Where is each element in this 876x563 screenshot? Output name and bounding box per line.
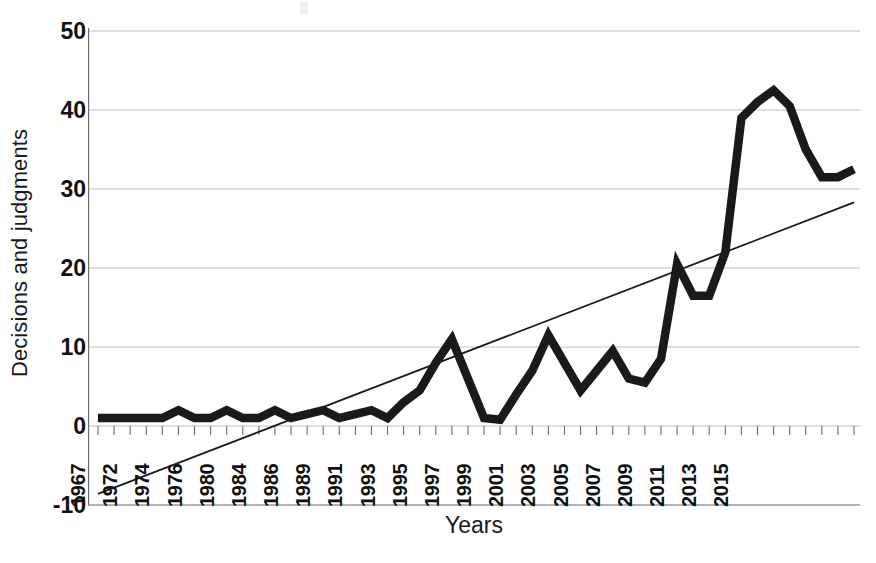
x-tick-label: 2009: [614, 464, 637, 507]
x-axis-ticks: 1967197219741976198019841986198919911993…: [88, 437, 860, 507]
x-tick-label: 1986: [260, 464, 283, 507]
data-line-series: [98, 90, 854, 419]
x-tick-label: 1995: [389, 464, 412, 507]
x-tick-label: 2015: [710, 464, 733, 507]
y-tick-label: 10: [26, 334, 86, 361]
x-tick-label: 2007: [582, 464, 605, 507]
x-tick-label: 1972: [99, 464, 122, 507]
x-tick-label: 1976: [164, 464, 187, 507]
x-tick-label: 1993: [357, 464, 380, 507]
y-tick-label: 50: [26, 18, 86, 45]
x-tick-label: 1991: [324, 464, 347, 507]
x-tick-label: 1974: [131, 464, 154, 507]
x-tick-label: 2001: [485, 464, 508, 507]
x-tick-label: 2011: [646, 465, 669, 507]
y-tick-label: 0: [26, 413, 86, 440]
x-tick-label: 2005: [550, 464, 573, 507]
y-tick-label: 30: [26, 176, 86, 203]
gridlines: [88, 31, 860, 505]
chart-svg: [88, 28, 860, 508]
y-tick-label: 20: [26, 255, 86, 282]
y-tick-label: 40: [26, 97, 86, 124]
x-tick-label: 1999: [453, 464, 476, 507]
x-axis-title: Years: [88, 512, 860, 539]
x-tick-label: 1989: [292, 464, 315, 507]
x-axis-title-text: Years: [445, 512, 503, 538]
scan-artifact: [300, 2, 308, 14]
x-tick-label: 1984: [228, 464, 251, 507]
x-tick-label: 2013: [678, 464, 701, 507]
x-tick-label: 1997: [421, 464, 444, 507]
x-tick-label: 1980: [196, 464, 219, 507]
x-tick-label: 1967: [67, 464, 90, 507]
chart-page: Decisions and judgments 50403020100-10 1…: [0, 0, 876, 563]
plot-area: [88, 28, 860, 508]
x-tick-label: 2003: [517, 464, 540, 507]
